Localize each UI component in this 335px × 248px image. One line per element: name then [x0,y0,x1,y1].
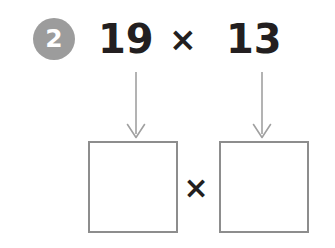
answer-box-right[interactable] [219,141,309,233]
arrow-down-icon-right [250,72,274,140]
equation-right-operand: 13 [226,16,282,62]
question-number-badge: 2 [33,18,75,60]
equation-left-operand: 19 [98,16,154,62]
multiply-icon: × [169,16,197,62]
worksheet-page: 2 19 × 13 × [0,0,335,248]
multiply-icon-answer-row: × [182,166,210,210]
arrow-down-icon-left [124,72,148,140]
answer-box-left[interactable] [88,141,178,233]
